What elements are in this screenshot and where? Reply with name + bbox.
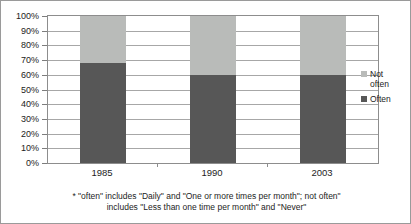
bar-group <box>190 16 236 163</box>
x-tick-label: 2003 <box>311 167 332 178</box>
x-tick-label: 1985 <box>91 167 112 178</box>
y-axis: 0%10%20%30%40%50%60%70%80%90%100% <box>1 15 43 164</box>
y-tick-label: 40% <box>21 100 39 109</box>
bar-group <box>300 16 346 163</box>
y-tick-label: 100% <box>16 12 39 21</box>
x-tick-mark <box>157 163 158 167</box>
bar-segment-not-often <box>190 16 236 75</box>
bar-segment-not-often <box>80 16 126 63</box>
y-tick-label: 80% <box>21 41 39 50</box>
legend-label: Not <box>370 69 383 79</box>
bar-group <box>80 16 126 163</box>
legend-item-often[interactable]: Often <box>361 94 411 104</box>
footnote-line-2: includes "Less than one time per month" … <box>7 202 406 213</box>
x-tick-label: 1990 <box>201 167 222 178</box>
x-axis: 198519902003 <box>47 167 379 183</box>
y-tick-label: 70% <box>21 56 39 65</box>
bar-segment-often <box>80 63 126 163</box>
chart-legend: NotoftenOften <box>361 69 411 109</box>
y-tick-label: 20% <box>21 129 39 138</box>
bar-stack <box>80 16 126 163</box>
y-tick-label: 90% <box>21 26 39 35</box>
bar-stack <box>300 16 346 163</box>
bar-segment-not-often <box>300 16 346 75</box>
y-tick-label: 30% <box>21 114 39 123</box>
y-tick-label: 60% <box>21 70 39 79</box>
bar-stack <box>190 16 236 163</box>
legend-label: Often <box>370 94 391 104</box>
legend-swatch-icon <box>361 96 367 102</box>
y-tick-label: 10% <box>21 144 39 153</box>
y-tick-label: 50% <box>21 85 39 94</box>
x-tick-mark <box>267 163 268 167</box>
legend-swatch-icon <box>361 71 367 77</box>
plot-area <box>47 15 379 164</box>
y-tick-label: 0% <box>26 159 39 168</box>
footnote-line-1: * "often" includes "Daily" and "One or m… <box>7 191 406 202</box>
legend-label-continued: often <box>370 79 411 89</box>
bar-segment-often <box>300 75 346 163</box>
bar-segment-often <box>190 75 236 163</box>
chart-footnote: * "often" includes "Daily" and "One or m… <box>7 191 406 213</box>
legend-item-not[interactable]: Notoften <box>361 69 411 89</box>
chart-figure: 0%10%20%30%40%50%60%70%80%90%100% 198519… <box>0 0 411 224</box>
plot-inner <box>48 16 378 163</box>
